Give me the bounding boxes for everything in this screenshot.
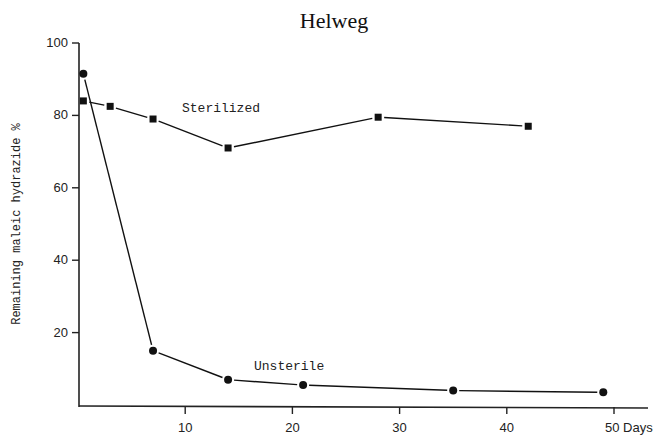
unsterile-segment [159, 353, 223, 378]
sterilized-segment [159, 121, 223, 146]
y-tick-label: 60 [54, 180, 68, 195]
circle-marker [149, 347, 157, 355]
axes [79, 43, 648, 408]
circle-marker [299, 381, 307, 389]
chart-title: Helweg [300, 8, 368, 33]
series-layer [79, 70, 607, 397]
circle-marker [224, 376, 232, 384]
square-marker [375, 114, 382, 121]
sterilized-label: Sterilized [182, 101, 260, 116]
sterilized-segment [384, 118, 522, 126]
x-ticks: 1020304050 Days [178, 407, 653, 435]
unsterile-segment [309, 385, 447, 390]
y-tick-label: 40 [54, 252, 68, 267]
unsterile-label: Unsterile [254, 359, 324, 374]
x-tick-label: 30 [392, 420, 406, 435]
x-tick-label: 40 [500, 420, 514, 435]
y-tick-label: 100 [46, 35, 68, 50]
unsterile-segment [85, 80, 152, 345]
circle-marker [599, 388, 607, 396]
x-tick-label: 50 Days [605, 420, 653, 435]
y-tick-label: 20 [54, 325, 68, 340]
sterilized-segment [234, 118, 372, 146]
unsterile-segment [459, 391, 597, 393]
chart: Helweg 20406080100 1020304050 Days Remai… [0, 0, 668, 438]
y-tick-label: 80 [54, 107, 68, 122]
x-tick-label: 10 [178, 420, 192, 435]
unsterile-segment [234, 380, 297, 385]
square-marker [225, 144, 232, 151]
circle-marker [79, 70, 87, 78]
square-marker [150, 116, 157, 123]
y-axis-label: Remaining maleic hydrazide % [10, 122, 24, 324]
sterilized-segment [116, 108, 147, 117]
circle-marker [449, 387, 457, 395]
x-tick-label: 20 [285, 420, 299, 435]
square-marker [107, 103, 114, 110]
square-marker [80, 97, 87, 104]
square-marker [525, 123, 532, 130]
x-axis [79, 406, 648, 408]
y-ticks: 20406080100 [46, 35, 79, 340]
